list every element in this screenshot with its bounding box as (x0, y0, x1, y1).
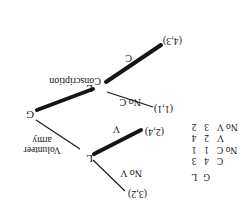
outcome-payoff-no-c: (1,1) (154, 104, 173, 114)
payoff-matrix-row: No C 1 1 (188, 143, 241, 154)
payoff-matrix-row: No V 3 2 (188, 121, 241, 132)
payoff-matrix-cell-c-g: 4 (200, 155, 213, 166)
edge-label-volunteer-line2: army (15, 134, 69, 144)
payoff-matrix-cell-v-l: 4 (188, 132, 200, 143)
payoff-matrix-cell-no-c-l: 1 (188, 143, 200, 154)
payoff-matrix-col-l: L (188, 166, 200, 182)
payoff-matrix-cell-no-v-g: 3 (200, 121, 213, 132)
edge-label-conscription: Conscription (49, 76, 101, 87)
payoff-matrix-row-label-c: C (213, 155, 241, 166)
payoff-matrix-row-label-no-c: No C (213, 143, 241, 154)
payoff-matrix-table: G L C 4 3 No C 1 1 V 2 4 No V 3 2 (188, 121, 241, 182)
edge-label-c: C (125, 53, 132, 64)
payoff-matrix-row: C 4 3 (188, 155, 241, 166)
edge-line-conscription (37, 89, 93, 110)
payoff-matrix-cell-no-v-l: 2 (188, 121, 200, 132)
outcome-payoff-c: (4,3) (163, 36, 182, 46)
payoff-matrix: G L C 4 3 No C 1 1 V 2 4 No V 3 2 (188, 121, 241, 182)
outcome-payoff-v: (2,4) (145, 127, 164, 137)
payoff-matrix-corner (213, 166, 241, 182)
edge-label-no-c: No C (120, 97, 141, 108)
edge-label-v: V (113, 124, 120, 135)
game-node-g: G (26, 109, 34, 120)
payoff-matrix-cell-no-c-g: 1 (200, 143, 213, 154)
payoff-matrix-header-row: G L (188, 166, 241, 182)
payoff-matrix-row: V 2 4 (188, 132, 241, 143)
payoff-matrix-row-label-v: V (213, 132, 241, 143)
edge-label-volunteer-line1: Volunteer (15, 144, 69, 154)
outcome-payoff-no-v: (3,2) (128, 189, 147, 199)
payoff-matrix-col-g: G (200, 166, 213, 182)
payoff-matrix-cell-v-g: 2 (200, 132, 213, 143)
edge-line-c (106, 45, 161, 82)
payoff-matrix-row-label-no-v: No V (213, 121, 241, 132)
game-tree-figure: G L L Conscription Volunteer army C No C… (0, 0, 245, 206)
payoff-matrix-cell-c-l: 3 (188, 155, 200, 166)
game-node-l-right: L (86, 153, 93, 164)
edge-label-no-v: No V (120, 168, 142, 179)
